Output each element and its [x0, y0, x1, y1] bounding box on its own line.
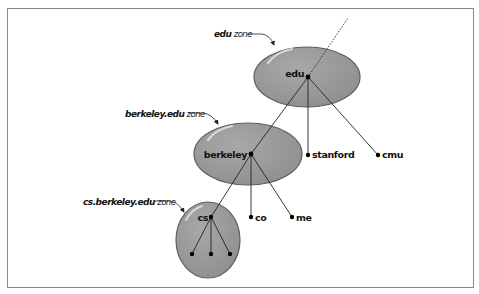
node-cs-dot — [209, 215, 213, 219]
callout-edu-zone-label: edu zone — [214, 29, 252, 39]
dns-zone-diagram: edu berkeley stanford cmu cs co me edu z… — [0, 0, 479, 294]
node-label-cmu: cmu — [382, 149, 403, 160]
node-stanford-dot — [306, 153, 310, 157]
node-label-me: me — [296, 212, 312, 223]
node-label-berkeley: berkeley — [204, 149, 248, 160]
node-cs-child-2-dot — [209, 252, 213, 256]
callout-berkeley-zone-label: berkeley.edu zone — [125, 109, 205, 119]
node-label-stanford: stanford — [312, 149, 354, 160]
node-label-edu: edu — [285, 68, 304, 79]
node-label-co: co — [255, 212, 267, 223]
node-cmu-dot — [376, 153, 380, 157]
node-me-dot — [290, 215, 294, 219]
zone-cs-ellipse — [176, 202, 240, 278]
node-berkeley-dot — [249, 152, 254, 157]
node-label-cs: cs — [198, 212, 209, 223]
node-cs-child-1-dot — [190, 252, 194, 256]
callout-cs-zone-label: cs.berkeley.edu zone — [83, 197, 176, 207]
node-edu-dot — [306, 75, 311, 80]
node-cs-child-3-dot — [228, 252, 232, 256]
node-co-dot — [249, 215, 253, 219]
